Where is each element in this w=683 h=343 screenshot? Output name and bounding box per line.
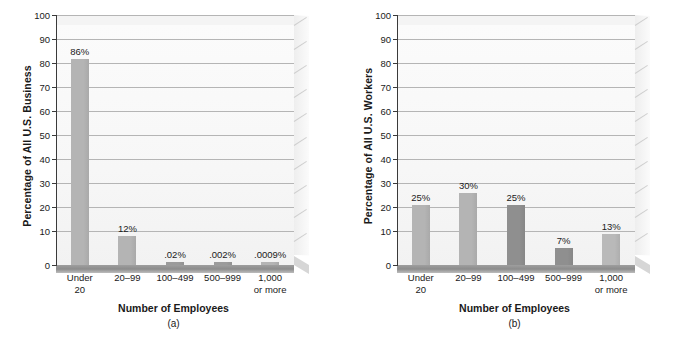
y-tick-mark bbox=[393, 135, 398, 136]
y-tick-label: 20 bbox=[365, 202, 391, 213]
y-tick-mark bbox=[393, 39, 398, 40]
y-tick-label: 0 bbox=[24, 260, 50, 271]
gridline bbox=[397, 63, 635, 64]
gridline bbox=[56, 231, 294, 232]
y-tick-mark bbox=[52, 207, 57, 208]
y-tick-mark bbox=[393, 159, 398, 160]
gridline bbox=[397, 39, 635, 40]
y-tick-label: 60 bbox=[365, 106, 391, 117]
y-tick-label: 30 bbox=[365, 178, 391, 189]
y-tick-mark bbox=[52, 63, 57, 64]
x-tick-label: 20–99 bbox=[114, 272, 140, 284]
plot-sidewall-b bbox=[635, 15, 650, 256]
bar-value-label: .002% bbox=[209, 249, 236, 260]
bar: 30% bbox=[459, 193, 477, 265]
y-tick-mark bbox=[52, 87, 57, 88]
x-tick-label: 500–999 bbox=[545, 272, 582, 284]
bar-face bbox=[71, 59, 89, 265]
y-tick-mark bbox=[393, 87, 398, 88]
bar-value-label: 7% bbox=[557, 235, 571, 246]
x-tick-labels-b: Under2020–99100–499500–9991,000or more bbox=[397, 272, 635, 302]
plot-area-a: 86%12%.02%.002%.0009% 010203040506070809… bbox=[56, 25, 294, 265]
y-tick-mark bbox=[393, 183, 398, 184]
bar-face bbox=[555, 248, 573, 265]
gridline bbox=[56, 87, 294, 88]
bar: 86% bbox=[71, 59, 89, 265]
y-tick-label: 100 bbox=[365, 10, 391, 21]
y-tick-mark bbox=[393, 63, 398, 64]
y-tick-label: 80 bbox=[365, 58, 391, 69]
x-tick-label: 1,000or more bbox=[595, 272, 628, 296]
bar-face bbox=[459, 193, 477, 265]
bar-value-label: .0009% bbox=[254, 249, 286, 260]
gridline bbox=[397, 87, 635, 88]
chart-panel-a: Percentage of All U.S. Business 86%12%.0… bbox=[0, 0, 342, 343]
y-tick-mark bbox=[52, 265, 57, 266]
y-tick-mark bbox=[52, 15, 57, 16]
gridline bbox=[397, 159, 635, 160]
gridline bbox=[56, 207, 294, 208]
bar-value-label: 12% bbox=[118, 223, 137, 234]
bar-value-label: 25% bbox=[411, 192, 430, 203]
y-tick-mark bbox=[393, 265, 398, 266]
gridline bbox=[56, 111, 294, 112]
y-tick-label: 60 bbox=[24, 106, 50, 117]
chart-panel-b: Percentage of All U.S. Workers 25%30%25%… bbox=[341, 0, 683, 343]
gridline bbox=[397, 111, 635, 112]
gridline bbox=[56, 39, 294, 40]
y-tick-label: 40 bbox=[24, 154, 50, 165]
x-axis-title-b: Number of Employees bbox=[377, 302, 652, 314]
y-tick-mark bbox=[52, 231, 57, 232]
plot-sidewall-a bbox=[294, 15, 309, 256]
bar-value-label: 25% bbox=[506, 192, 525, 203]
y-tick-label: 0 bbox=[365, 260, 391, 271]
y-tick-label: 10 bbox=[24, 226, 50, 237]
gridline bbox=[56, 183, 294, 184]
x-tick-label: Under20 bbox=[408, 272, 434, 296]
y-tick-mark bbox=[52, 159, 57, 160]
gridline bbox=[397, 135, 635, 136]
panel-caption-b: (b) bbox=[377, 318, 652, 329]
y-tick-mark bbox=[393, 15, 398, 16]
y-axis-line-b bbox=[397, 15, 398, 265]
y-tick-label: 90 bbox=[365, 34, 391, 45]
y-tick-label: 10 bbox=[365, 226, 391, 237]
plot-floor-side-a bbox=[294, 256, 309, 274]
plot-frontface-a bbox=[56, 25, 294, 265]
bar-face bbox=[602, 234, 620, 265]
y-tick-label: 20 bbox=[24, 202, 50, 213]
plot-floor-side-b bbox=[635, 256, 650, 274]
y-tick-mark bbox=[52, 135, 57, 136]
x-tick-labels-a: Under2020–99100–499500–9991,000or more bbox=[56, 272, 294, 302]
y-tick-mark bbox=[393, 231, 398, 232]
bar-face bbox=[118, 236, 136, 265]
bar: 25% bbox=[412, 205, 430, 265]
x-tick-label: 20–99 bbox=[455, 272, 481, 284]
x-tick-label: Under20 bbox=[67, 272, 93, 296]
gridline bbox=[56, 63, 294, 64]
x-axis-title-a: Number of Employees bbox=[36, 302, 311, 314]
figure-two-bar-charts: Percentage of All U.S. Business 86%12%.0… bbox=[0, 0, 683, 343]
y-tick-mark bbox=[52, 111, 57, 112]
bar-face bbox=[412, 205, 430, 265]
gridline bbox=[56, 159, 294, 160]
bar: 12% bbox=[118, 236, 136, 265]
gridline bbox=[56, 15, 294, 16]
y-tick-label: 80 bbox=[24, 58, 50, 69]
bar-value-label: .02% bbox=[164, 249, 186, 260]
y-tick-label: 70 bbox=[24, 82, 50, 93]
y-tick-label: 40 bbox=[365, 154, 391, 165]
x-tick-label: 100–499 bbox=[157, 272, 194, 284]
y-tick-mark bbox=[393, 207, 398, 208]
y-tick-label: 50 bbox=[365, 130, 391, 141]
bar: 25% bbox=[507, 205, 525, 265]
y-tick-mark bbox=[393, 111, 398, 112]
panel-caption-a: (a) bbox=[36, 318, 311, 329]
x-tick-label: 1,000or more bbox=[254, 272, 287, 296]
gridline bbox=[397, 183, 635, 184]
y-tick-mark bbox=[52, 183, 57, 184]
y-tick-label: 100 bbox=[24, 10, 50, 21]
x-tick-label: 500–999 bbox=[204, 272, 241, 284]
plot-area-b: 25%30%25%7%13% 0102030405060708090100 bbox=[397, 25, 635, 265]
bar: 13% bbox=[602, 234, 620, 265]
